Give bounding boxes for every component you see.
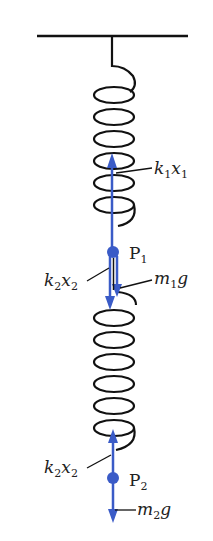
label-p2: P2 [129, 470, 147, 493]
leader-k2x2-lower [87, 455, 111, 468]
label-k1x1: k1x1 [154, 158, 188, 181]
spring-1-hook [112, 36, 135, 92]
leader-k2x2-upper [87, 268, 109, 281]
force-m2g-arrow [108, 478, 118, 523]
spring-1 [94, 87, 135, 226]
spring-diagram: k1x1 P1 k2x2 m1g k2x2 P2 m2g [0, 0, 213, 541]
label-m1g: m1g [154, 268, 188, 291]
point-p2 [107, 472, 119, 484]
label-k2x2-lower: k2x2 [44, 457, 78, 480]
leader-m1g [120, 280, 152, 288]
label-p1: P1 [129, 243, 147, 266]
label-m2g: m2g [137, 499, 171, 522]
force-k1x1-arrow [107, 153, 117, 252]
spring-2 [94, 292, 136, 450]
point-p1 [107, 246, 119, 258]
label-k2x2-upper: k2x2 [44, 270, 78, 293]
